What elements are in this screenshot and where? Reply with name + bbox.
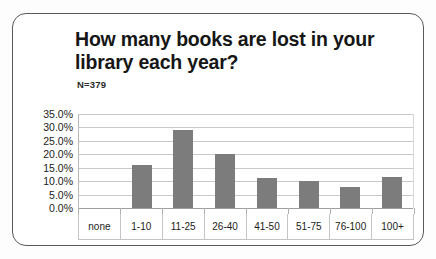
bar-series [79,114,413,208]
y-axis-tick-label: 5.0% [18,189,73,200]
bar[interactable] [299,181,319,208]
bar-cell [204,114,246,208]
y-axis-tick-labels: 35.0%30.0%25.0%20.0%15.0%10.0%5.0%0.0% [18,114,73,208]
x-axis-category-label: 76-100 [330,214,372,239]
y-axis-tick-label: 0.0% [18,203,73,214]
bar-cell [79,114,121,208]
plot-wrapper: 35.0%30.0%25.0%20.0%15.0%10.0%5.0%0.0% n… [18,102,418,242]
bar[interactable] [215,154,235,208]
bar[interactable] [173,130,193,208]
x-axis-category-label: 51-75 [288,214,330,239]
x-axis-category-labels: none1-1011-2526-4041-5051-7576-100100+ [78,214,414,240]
bar-cell [246,114,288,208]
bar[interactable] [257,178,277,208]
chart-subtitle-sample-size: N=379 [77,79,415,90]
plot-area [78,114,414,208]
x-axis-category-label: 26-40 [205,214,247,239]
title-block: How many books are lost in your library … [75,28,415,90]
chart-page: How many books are lost in your library … [0,0,436,259]
bar-cell [121,114,163,208]
bar-cell [330,114,372,208]
bar-cell [288,114,330,208]
y-axis-tick-label: 25.0% [18,136,73,147]
bar-cell [163,114,205,208]
x-axis-tickmark [414,208,415,214]
x-axis-category-label: 11-25 [163,214,205,239]
x-axis-category-label: none [79,214,121,239]
y-axis-tick-label: 10.0% [18,176,73,187]
chart-frame: How many books are lost in your library … [12,13,424,246]
x-axis-category-label: 100+ [372,214,413,239]
bar[interactable] [340,187,360,208]
bar[interactable] [132,165,152,208]
bar-cell [371,114,413,208]
x-axis-category-label: 41-50 [247,214,289,239]
y-axis-tick-label: 20.0% [18,149,73,160]
x-axis-category-label: 1-10 [121,214,163,239]
y-axis-tick-label: 35.0% [18,109,73,120]
y-axis-tick-label: 30.0% [18,122,73,133]
y-axis-tick-label: 15.0% [18,162,73,173]
page-title: How many books are lost in your library … [75,28,415,74]
bar[interactable] [382,177,402,208]
